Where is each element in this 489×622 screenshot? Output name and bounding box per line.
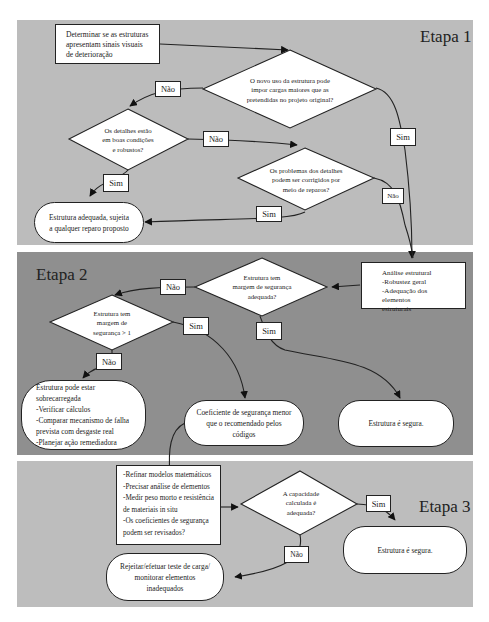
stage-label-etapa-3: Etapa 3 (419, 497, 470, 517)
decision-new-use-text: O novo uso da estrutura pode impor carga… (230, 72, 350, 108)
stage-label-etapa-2: Etapa 2 (36, 265, 87, 285)
label-margin-yes: Sim (256, 322, 282, 340)
analysis-box: Análise estrutural -Robustez geral -Adeq… (361, 262, 466, 309)
decision-margin-gt1-text: Estrutura tem margem de segurança > 1 (80, 308, 144, 338)
terminal-structure-safe-etapa3: Estrutura é segura. (343, 526, 467, 574)
terminal-reject-test: Rejeitar/efetuar teste de carga/ monitor… (106, 553, 224, 601)
stage-label-etapa-1: Etapa 1 (420, 27, 471, 47)
decision-capacity-text: A capacidade calculada é adequada? (272, 488, 330, 518)
decision-details-ok-text: Os detalhes estão em boas condições e ro… (90, 125, 166, 155)
label-new-use-no: Não (155, 81, 181, 97)
label-details-ok-no: Não (203, 131, 229, 147)
terminal-structure-safe-etapa2: Estrutura é segura. (338, 400, 454, 447)
arrow-analysis-to-margin (332, 285, 360, 287)
start-box-visual-deterioration: Determinar se as estruturas apresentam s… (55, 24, 160, 64)
decision-details-repair-text: Os problemas dos detalhes podem ser corr… (260, 165, 352, 195)
terminal-overloaded: Estrutura pode estar sobrecarregada -Ver… (21, 380, 146, 450)
arrow-start-to-new-use (160, 44, 288, 50)
label-repair-yes: Sim (256, 206, 282, 222)
label-capacity-yes: Sim (366, 495, 391, 512)
terminal-structure-adequate: Estrutura adequada, sujeita a qualquer r… (34, 202, 144, 243)
label-new-use-yes: Sim (390, 128, 416, 146)
label-gt1-yes: Sim (183, 317, 209, 335)
arrow-new-use-yes (376, 88, 412, 258)
label-repair-no: Não (382, 188, 404, 204)
label-capacity-no: Não (284, 546, 309, 563)
refine-box: -Refinar modelos matemáticos -Precisar a… (116, 465, 221, 545)
label-gt1-no: Não (96, 353, 122, 370)
decision-margin-text: Estrutura tem margem de segurança adequa… (225, 272, 299, 302)
terminal-coefficient-lower: Coeficiente de segurança menor que o rec… (184, 400, 304, 446)
label-margin-no: Não (160, 279, 186, 295)
label-details-ok-yes: Sim (103, 174, 129, 192)
